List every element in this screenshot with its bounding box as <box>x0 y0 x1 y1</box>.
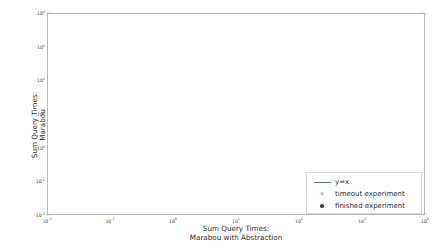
chart-legend: y=x ✕ timeout experiment finished experi… <box>306 172 422 214</box>
x-tick-label: 100 <box>169 217 177 224</box>
y-tick-label: 10-1 <box>36 178 45 185</box>
x-axis-label: Sum Query Times: Marabou with Abstractio… <box>47 225 425 242</box>
x-tick-label: 103 <box>358 217 366 224</box>
legend-label-timeout: timeout experiment <box>333 190 405 198</box>
legend-line-icon <box>311 182 333 183</box>
scatter-plot-figure: Sum Query Times: Marabou Sum Query Times… <box>0 0 446 250</box>
legend-item-finished: finished experiment <box>311 200 417 212</box>
x-tick-label: 10-1 <box>105 217 114 224</box>
x-axis-label-line-2: Marabou with Abstraction <box>47 234 425 243</box>
legend-label-yx: y=x <box>333 178 349 186</box>
x-tick-label: 10-2 <box>42 217 51 224</box>
y-tick-label: 104 <box>37 10 45 17</box>
y-tick-label: 101 <box>37 111 45 118</box>
legend-item-timeout: ✕ timeout experiment <box>311 188 417 200</box>
legend-label-finished: finished experiment <box>333 202 405 210</box>
x-tick-label: 104 <box>421 217 429 224</box>
legend-x-marker-icon: ✕ <box>311 191 333 197</box>
y-tick-label: 102 <box>37 77 45 84</box>
x-axis-tick-labels: 10-210-1100101102103104 <box>0 217 446 227</box>
y-tick-label: 103 <box>37 43 45 50</box>
y-axis-tick-labels: 10-210-1100101102103104 <box>26 0 45 250</box>
x-tick-label: 102 <box>295 217 303 224</box>
legend-item-yx: y=x <box>311 176 417 188</box>
x-tick-label: 101 <box>232 217 240 224</box>
legend-dot-marker-icon <box>311 204 333 208</box>
y-tick-label: 100 <box>37 144 45 151</box>
